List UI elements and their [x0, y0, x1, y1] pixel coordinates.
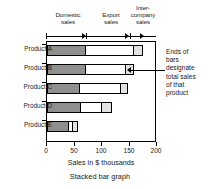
ylabel-product-d: Product D: [8, 102, 52, 110]
header-export-line1: Export: [96, 11, 126, 18]
bracket-arrow-export-end: [125, 33, 129, 39]
bar-segment-intercompany-e[interactable]: [72, 121, 78, 132]
header-domestic-line1: Domestic: [48, 11, 88, 18]
xtick-200: [156, 142, 157, 146]
xtick-label-200: 200: [146, 147, 166, 155]
header-domestic-sales: Domestic sales: [48, 11, 88, 25]
annotation-leader-line: [131, 70, 165, 71]
ytick-d: [42, 101, 46, 102]
bracket-tick-start: [46, 33, 47, 39]
x-axis-title: Sales in $ thousands: [26, 158, 176, 167]
bar-segment-domestic-b[interactable]: [47, 64, 86, 75]
ylabel-product-b: Product B: [8, 64, 52, 72]
bar-segment-domestic-d[interactable]: [47, 102, 81, 113]
xtick-label-50: 50: [64, 147, 84, 155]
header-inter-line1: Inter-: [126, 4, 160, 11]
bar-segment-export-a[interactable]: [85, 45, 134, 56]
header-export-sales: Export sales: [96, 11, 126, 25]
ytick-b: [42, 63, 46, 64]
annotation-line-5: of that: [166, 81, 212, 89]
xtick-label-100: 100: [91, 147, 111, 155]
xtick-100: [101, 142, 102, 146]
xtick-label-150: 150: [119, 147, 139, 155]
bracket-arrow-inter-end: [140, 33, 144, 39]
chart-plot-area: [46, 41, 156, 142]
ylabel-product-c: Product C: [8, 83, 52, 91]
annotation-arrow-icon: [127, 67, 131, 73]
ylabel-product-e: Product E: [8, 121, 52, 129]
bracket-tick-export-start: [86, 33, 87, 39]
header-intercompany-sales: Inter- company sales: [126, 4, 160, 26]
bar-segment-intercompany-d[interactable]: [101, 102, 112, 113]
header-export-line2: sales: [96, 18, 126, 25]
bar-segment-export-c[interactable]: [79, 83, 121, 94]
bracket-tick-inter-start: [130, 33, 131, 39]
bar-segment-intercompany-c[interactable]: [120, 83, 128, 94]
annotation-line-1: Ends of: [166, 48, 212, 56]
header-domestic-line2: sales: [48, 18, 88, 25]
header-inter-line2: company: [126, 11, 160, 18]
xtick-150: [129, 142, 130, 146]
header-inter-line3: sales: [126, 18, 160, 25]
annotation-line-3: designate: [166, 64, 212, 72]
annotation-line-4: total sales: [166, 73, 212, 81]
annotation-total-sales: Ends of bars designate total sales of th…: [166, 48, 212, 97]
bar-segment-export-d[interactable]: [80, 102, 102, 113]
annotation-line-6: product: [166, 89, 212, 97]
chart-caption: Stacked bar graph: [20, 172, 180, 181]
bar-segment-export-b[interactable]: [85, 64, 126, 75]
ylabel-product-a: Product A: [8, 45, 52, 53]
xtick-0: [46, 142, 47, 146]
bar-segment-domestic-a[interactable]: [47, 45, 86, 56]
ytick-c: [42, 82, 46, 83]
ytick-a: [42, 44, 46, 45]
xtick-label-0: 0: [36, 147, 56, 155]
xtick-50: [74, 142, 75, 146]
annotation-line-2: bars: [166, 56, 212, 64]
ytick-e: [42, 120, 46, 121]
bar-segment-intercompany-a[interactable]: [133, 45, 143, 56]
